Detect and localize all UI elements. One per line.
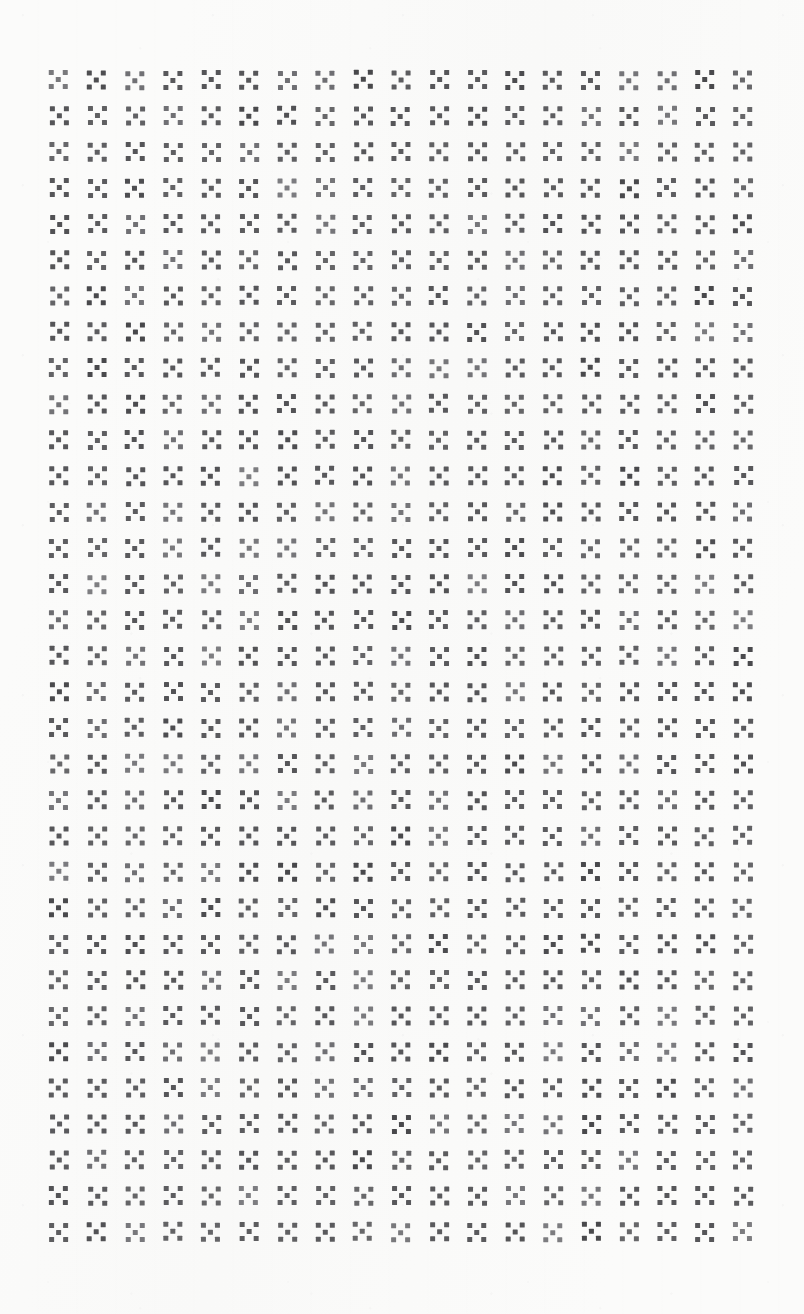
glyph-block-off <box>696 726 701 731</box>
glyph-block-off <box>240 546 245 551</box>
glyph-block-off <box>202 1122 207 1127</box>
glyph-block-off <box>627 301 632 306</box>
glyph-block-on <box>215 935 220 940</box>
glyph-block-on <box>330 286 335 291</box>
glyph-block-on <box>482 121 487 126</box>
glyph-block-off <box>292 1050 297 1055</box>
saltire-square-glyph <box>506 935 525 954</box>
saltire-square-glyph <box>354 610 373 629</box>
glyph-block-on <box>50 264 55 269</box>
glyph-block-on <box>443 539 448 544</box>
glyph-block-off <box>703 372 708 377</box>
glyph-block-on <box>543 466 548 471</box>
glyph-block-off <box>626 121 631 126</box>
glyph-block-off <box>139 1049 144 1054</box>
glyph-block-on <box>505 228 510 233</box>
glyph-block-on <box>102 143 107 148</box>
glyph-block-on <box>595 179 600 184</box>
glyph-block-on <box>430 84 435 89</box>
glyph-block-off <box>239 1193 244 1198</box>
glyph-block-on <box>49 912 54 917</box>
saltire-square-glyph <box>468 610 487 629</box>
glyph-block-on <box>468 538 473 543</box>
glyph-block-on <box>633 1079 638 1084</box>
glyph-block-on <box>95 402 100 407</box>
glyph-block-on <box>505 1057 510 1062</box>
saltire-square-glyph <box>49 1186 68 1205</box>
glyph-block-on <box>709 1078 714 1083</box>
glyph-block-on <box>506 912 511 917</box>
glyph-block-on <box>398 654 403 659</box>
glyph-block-off <box>665 732 670 737</box>
glyph-block-on <box>581 841 586 846</box>
glyph-block-off <box>740 696 745 701</box>
glyph-block-on <box>132 186 137 191</box>
glyph-block-on <box>125 754 130 759</box>
glyph-cell <box>534 710 572 746</box>
glyph-block-on <box>88 827 93 832</box>
glyph-cell <box>648 1214 686 1250</box>
glyph-block-on <box>292 661 297 666</box>
glyph-block-off <box>164 870 169 875</box>
glyph-block-on <box>475 545 480 550</box>
saltire-square-glyph <box>391 107 410 126</box>
glyph-block-off <box>88 978 93 983</box>
glyph-block-off <box>209 337 214 342</box>
glyph-block-on <box>292 1237 297 1242</box>
glyph-block-on <box>132 582 137 587</box>
glyph-block-on <box>126 1186 131 1191</box>
glyph-block-off <box>170 552 175 557</box>
saltire-square-glyph <box>505 826 524 845</box>
saltire-square-glyph <box>734 610 753 629</box>
glyph-block-off <box>436 1043 441 1048</box>
glyph-block-on <box>664 582 669 587</box>
glyph-block-on <box>595 323 600 328</box>
glyph-block-on <box>406 322 411 327</box>
glyph-block-on <box>56 1230 61 1235</box>
glyph-block-off <box>703 539 708 544</box>
glyph-block-on <box>178 1129 183 1134</box>
glyph-block-off <box>741 1020 746 1025</box>
glyph-block-on <box>253 661 258 666</box>
glyph-block-on <box>474 1049 479 1054</box>
glyph-block-on <box>354 1201 359 1206</box>
glyph-block-on <box>88 719 93 724</box>
glyph-block-on <box>467 719 472 724</box>
glyph-block-off <box>49 1049 54 1054</box>
glyph-cell <box>230 998 268 1034</box>
saltire-square-glyph <box>658 71 677 90</box>
glyph-block-on <box>291 588 296 593</box>
glyph-block-on <box>443 791 448 796</box>
glyph-cell <box>116 422 154 458</box>
glyph-block-on <box>672 732 677 737</box>
glyph-block-on <box>216 323 221 328</box>
glyph-block-on <box>392 287 397 292</box>
glyph-block-on <box>589 1086 594 1091</box>
glyph-block-on <box>671 1186 676 1191</box>
glyph-block-off <box>589 1222 594 1227</box>
glyph-block-on <box>102 1020 107 1025</box>
glyph-block-on <box>209 437 214 442</box>
glyph-block-off <box>703 358 708 363</box>
glyph-block-off <box>247 373 252 378</box>
glyph-block-on <box>544 660 549 665</box>
glyph-block-on <box>468 70 473 75</box>
glyph-block-on <box>215 1223 220 1228</box>
glyph-block-off <box>430 905 435 910</box>
glyph-block-on <box>633 1151 638 1156</box>
glyph-block-off <box>88 113 93 118</box>
glyph-block-off <box>361 430 366 435</box>
glyph-block-on <box>254 539 259 544</box>
glyph-block-off <box>367 653 372 658</box>
glyph-block-on <box>126 142 131 147</box>
glyph-block-off <box>278 258 283 263</box>
glyph-cell <box>40 890 78 926</box>
glyph-block-on <box>126 322 131 327</box>
glyph-block-on <box>627 1121 632 1126</box>
glyph-block-on <box>126 1129 131 1134</box>
glyph-block-off <box>405 474 410 479</box>
glyph-block-on <box>63 1223 68 1228</box>
glyph-block-on <box>444 647 449 652</box>
glyph-block-off <box>132 732 137 737</box>
glyph-block-off <box>254 977 259 982</box>
